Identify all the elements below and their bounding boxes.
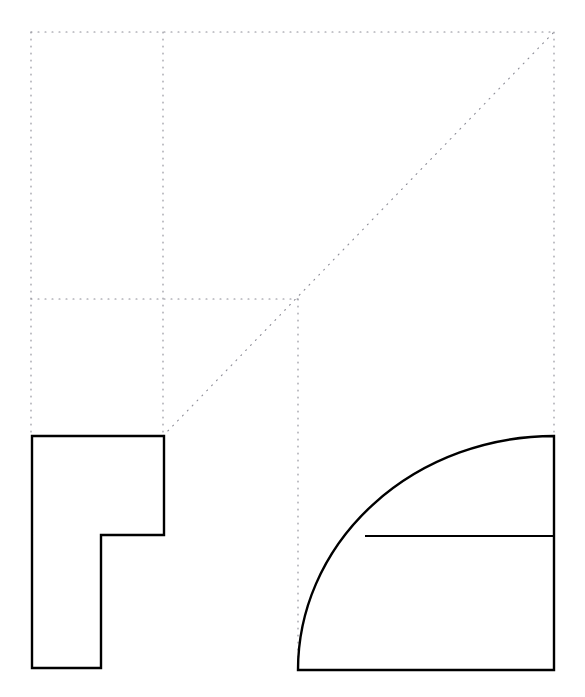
geometry-figure-canvas	[0, 0, 585, 697]
